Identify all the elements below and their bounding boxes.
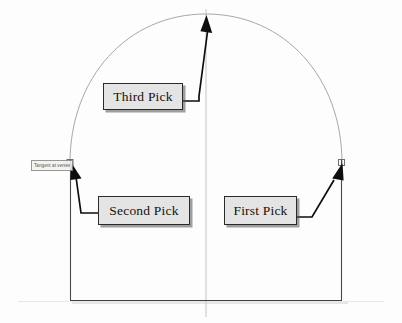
callout-first-pick[interactable]: First Pick (224, 196, 297, 225)
leader-arrowhead-third (200, 15, 212, 33)
drawing-canvas[interactable]: Tangent at vertex Third Pick Second Pick… (0, 0, 402, 323)
callout-first-pick-label: First Pick (233, 204, 287, 218)
leader-line-third (183, 28, 208, 101)
leader-line-second (76, 177, 98, 213)
callout-second-pick[interactable]: Second Pick (98, 196, 190, 225)
callout-third-pick[interactable]: Third Pick (103, 83, 183, 110)
leader-line-first (297, 180, 334, 217)
callout-second-pick-label: Second Pick (109, 204, 178, 218)
leader-arrowhead-first (332, 163, 343, 180)
osnap-tooltip: Tangent at vertex (31, 160, 73, 171)
callout-third-pick-label: Third Pick (113, 90, 172, 104)
